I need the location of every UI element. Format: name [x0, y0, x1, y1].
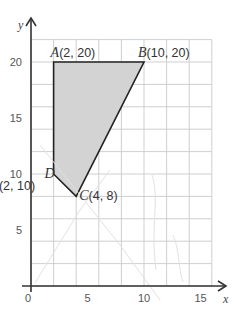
x-tick-label: 10: [138, 292, 150, 304]
x-tick-label: 15: [194, 292, 206, 304]
y-tick-label: 5: [16, 224, 22, 236]
y-tick-label: 20: [10, 56, 22, 68]
point-coords-d: (2, 10): [0, 179, 35, 193]
y-tick-label: 15: [10, 112, 22, 124]
point-label-b: B(10, 20): [138, 45, 190, 60]
point-label-d: D: [44, 166, 55, 181]
point-label-c: C(4, 8): [79, 188, 118, 203]
coordinate-plane: 510155101520A(2, 20)B(10, 20)C(4, 8)D(2,…: [0, 0, 247, 318]
x-axis-label: x: [222, 292, 229, 306]
origin-label: 0: [25, 292, 31, 304]
x-tick-label: 5: [84, 292, 90, 304]
point-label-a: A(2, 20): [50, 45, 96, 60]
y-axis-label: y: [17, 18, 24, 32]
